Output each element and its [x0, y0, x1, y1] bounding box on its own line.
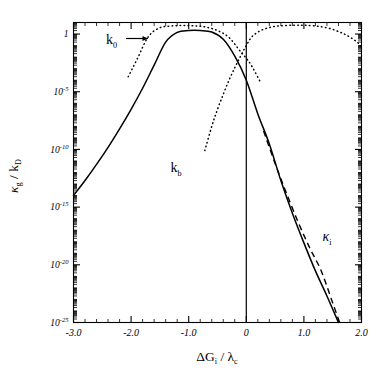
x-tick-label: -2.0 — [123, 327, 139, 338]
y-title-k-sub: D — [14, 159, 23, 165]
chart-canvas: -3.0-2.0-1.001.02.0 110-510-1010-1510-20… — [0, 0, 386, 375]
svg-text:ΔGi / λc: ΔGi / λc — [196, 349, 238, 366]
kb-sub: b — [177, 169, 181, 178]
x-tick-label: 1.0 — [298, 327, 311, 338]
x-title-g: G — [205, 349, 215, 364]
kb-base: k — [170, 160, 177, 175]
x-tick-label: -1.0 — [181, 327, 197, 338]
y-title-slash: / — [6, 172, 21, 183]
k0-sub: 0 — [113, 41, 117, 50]
x-tick-label: 2.0 — [355, 327, 368, 338]
x-axis-title: ΔGi / λc — [196, 349, 238, 366]
x-tick-label: -3.0 — [66, 327, 82, 338]
figure-container: -3.0-2.0-1.001.02.0 110-510-1010-1510-20… — [0, 0, 386, 375]
x-title-lambda-sub: c — [234, 357, 238, 366]
k0-base: k — [106, 32, 113, 47]
x-tick-label: 0 — [244, 327, 249, 338]
y-tick-label: 1 — [64, 29, 69, 39]
x-title-slash: / — [217, 349, 228, 364]
x-title-delta: Δ — [196, 349, 205, 364]
